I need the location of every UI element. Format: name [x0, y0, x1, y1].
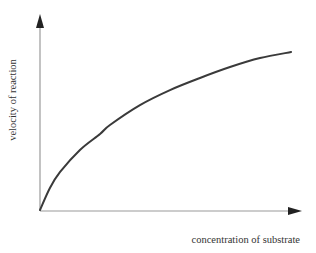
data-points-group — [40, 52, 291, 210]
y-axis-arrowhead — [36, 14, 44, 28]
x-axis-label: concentration of substrate — [192, 234, 301, 245]
x-axis-arrowhead — [288, 207, 302, 215]
y-axis-label: velocity of reaction — [7, 58, 18, 140]
series-line-reaction-velocity — [40, 52, 291, 210]
chart: velocity of reaction concentration of su… — [0, 0, 316, 253]
